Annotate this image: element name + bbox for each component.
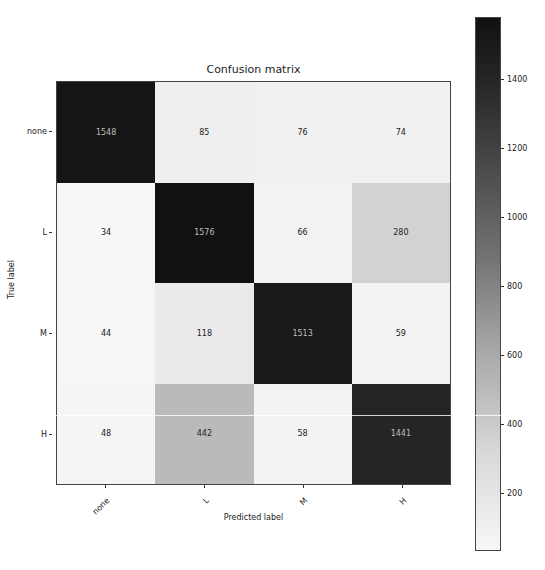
y-tick-h: H <box>0 430 52 439</box>
colorbar-tick-600: 600 <box>501 351 522 360</box>
matrix-cell: 1513 <box>254 283 352 384</box>
confusion-matrix-grid: 1548857674341576662804411815135948442581… <box>56 81 451 485</box>
y-axis-label: True label <box>7 260 16 299</box>
matrix-cell: 58 <box>254 384 352 485</box>
x-tick-mark <box>402 485 403 488</box>
scan-artifact-line <box>56 415 501 416</box>
x-tick-mark <box>303 485 304 488</box>
matrix-cell: 85 <box>155 82 253 183</box>
matrix-cell: 1548 <box>57 82 155 183</box>
matrix-cell: 1576 <box>155 183 253 284</box>
colorbar-tick-800: 800 <box>501 282 522 291</box>
y-tick-m: M <box>0 329 52 338</box>
matrix-cell: 118 <box>155 283 253 384</box>
x-tick-l: L <box>201 496 211 506</box>
x-tick-mark <box>105 485 106 488</box>
chart-title: Confusion matrix <box>56 63 451 76</box>
matrix-cell: 48 <box>57 384 155 485</box>
matrix-cell: 74 <box>352 82 450 183</box>
colorbar <box>475 17 501 551</box>
y-tick-none: none <box>0 127 52 136</box>
colorbar-tick-1000: 1000 <box>501 213 527 222</box>
x-tick-h: H <box>398 496 409 507</box>
matrix-cell: 44 <box>57 283 155 384</box>
x-tick-mark <box>204 485 205 488</box>
colorbar-tick-400: 400 <box>501 420 522 429</box>
matrix-cell: 1441 <box>352 384 450 485</box>
matrix-cell: 280 <box>352 183 450 284</box>
matrix-cell: 76 <box>254 82 352 183</box>
matrix-cell: 66 <box>254 183 352 284</box>
x-axis-label: Predicted label <box>56 513 451 522</box>
matrix-cell: 34 <box>57 183 155 284</box>
colorbar-tick-1400: 1400 <box>501 75 527 84</box>
matrix-cell: 442 <box>155 384 253 485</box>
colorbar-tick-200: 200 <box>501 489 522 498</box>
y-tick-l: L <box>0 228 52 237</box>
x-tick-m: M <box>298 496 309 507</box>
colorbar-tick-1200: 1200 <box>501 144 527 153</box>
matrix-cell: 59 <box>352 283 450 384</box>
